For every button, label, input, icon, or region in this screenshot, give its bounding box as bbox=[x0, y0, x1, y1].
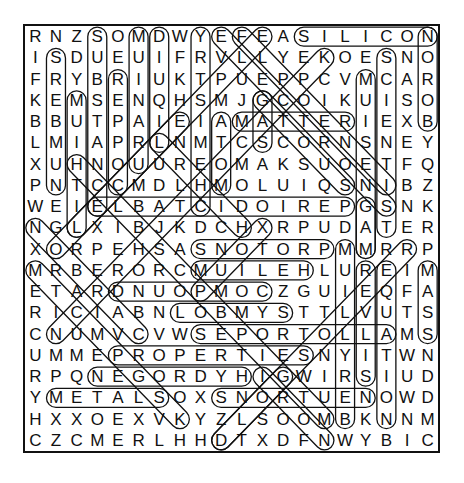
grid-cell[interactable]: E bbox=[108, 239, 129, 260]
grid-cell[interactable]: O bbox=[273, 239, 294, 260]
grid-cell[interactable]: I bbox=[25, 47, 46, 68]
grid-cell[interactable]: P bbox=[46, 366, 67, 387]
grid-cell[interactable]: R bbox=[170, 154, 191, 175]
grid-cell[interactable]: H bbox=[190, 430, 211, 451]
grid-cell[interactable]: C bbox=[170, 260, 191, 281]
grid-cell[interactable]: I bbox=[46, 302, 67, 323]
grid-cell[interactable]: P bbox=[293, 69, 314, 90]
grid-cell[interactable]: O bbox=[273, 409, 294, 430]
grid-cell[interactable]: I bbox=[397, 430, 418, 451]
grid-cell[interactable]: N bbox=[87, 154, 108, 175]
grid-cell[interactable]: E bbox=[87, 345, 108, 366]
grid-cell[interactable]: E bbox=[190, 345, 211, 366]
grid-cell[interactable]: G bbox=[273, 366, 294, 387]
grid-cell[interactable]: X bbox=[252, 430, 273, 451]
grid-cell[interactable]: R bbox=[355, 260, 376, 281]
grid-cell[interactable]: E bbox=[46, 196, 67, 217]
grid-cell[interactable]: V bbox=[335, 69, 356, 90]
grid-cell[interactable]: X bbox=[25, 154, 46, 175]
grid-cell[interactable]: D bbox=[417, 387, 438, 408]
grid-cell[interactable]: T bbox=[293, 387, 314, 408]
grid-cell[interactable]: V bbox=[355, 302, 376, 323]
grid-cell[interactable]: A bbox=[252, 154, 273, 175]
grid-cell[interactable]: I bbox=[149, 111, 170, 132]
grid-cell[interactable]: W bbox=[25, 196, 46, 217]
grid-cell[interactable]: I bbox=[149, 47, 170, 68]
grid-cell[interactable]: R bbox=[293, 196, 314, 217]
grid-cell[interactable]: V bbox=[211, 47, 232, 68]
grid-cell[interactable]: A bbox=[108, 302, 129, 323]
grid-cell[interactable]: W bbox=[293, 366, 314, 387]
grid-cell[interactable]: S bbox=[273, 302, 294, 323]
grid-cell[interactable]: M bbox=[231, 302, 252, 323]
grid-cell[interactable]: Y bbox=[252, 302, 273, 323]
grid-cell[interactable]: N bbox=[417, 345, 438, 366]
grid-cell[interactable]: X bbox=[190, 387, 211, 408]
grid-cell[interactable]: N bbox=[87, 366, 108, 387]
grid-cell[interactable]: N bbox=[376, 132, 397, 153]
grid-cell[interactable]: N bbox=[314, 430, 335, 451]
grid-cell[interactable]: B bbox=[397, 175, 418, 196]
grid-cell[interactable]: C bbox=[66, 302, 87, 323]
grid-cell[interactable]: S bbox=[335, 175, 356, 196]
grid-cell[interactable]: I bbox=[376, 366, 397, 387]
grid-cell[interactable]: L bbox=[252, 260, 273, 281]
grid-cell[interactable]: W bbox=[170, 324, 191, 345]
grid-cell[interactable]: G bbox=[293, 281, 314, 302]
grid-cell[interactable]: D bbox=[66, 47, 87, 68]
grid-cell[interactable]: C bbox=[108, 175, 129, 196]
grid-cell[interactable]: U bbox=[376, 302, 397, 323]
grid-cell[interactable]: H bbox=[170, 430, 191, 451]
grid-cell[interactable]: A bbox=[397, 69, 418, 90]
grid-cell[interactable]: D bbox=[149, 175, 170, 196]
grid-cell[interactable]: T bbox=[376, 154, 397, 175]
grid-cell[interactable]: P bbox=[87, 239, 108, 260]
grid-cell[interactable]: L bbox=[128, 387, 149, 408]
grid-cell[interactable]: E bbox=[108, 366, 129, 387]
grid-cell[interactable]: T bbox=[273, 111, 294, 132]
grid-cell[interactable]: T bbox=[314, 302, 335, 323]
grid-cell[interactable]: I bbox=[355, 111, 376, 132]
grid-cell[interactable]: Y bbox=[335, 345, 356, 366]
grid-cell[interactable]: Z bbox=[66, 26, 87, 47]
grid-cell[interactable]: N bbox=[231, 387, 252, 408]
grid-cell[interactable]: C bbox=[273, 132, 294, 153]
grid-cell[interactable]: O bbox=[314, 324, 335, 345]
grid-cell[interactable]: X bbox=[46, 409, 67, 430]
grid-cell[interactable]: K bbox=[273, 154, 294, 175]
grid-cell[interactable]: A bbox=[376, 324, 397, 345]
grid-cell[interactable]: I bbox=[314, 26, 335, 47]
grid-cell[interactable]: R bbox=[273, 387, 294, 408]
grid-cell[interactable]: P bbox=[417, 239, 438, 260]
grid-cell[interactable]: Y bbox=[190, 409, 211, 430]
grid-cell[interactable]: U bbox=[66, 111, 87, 132]
grid-cell[interactable]: L bbox=[108, 196, 129, 217]
grid-cell[interactable]: O bbox=[231, 239, 252, 260]
grid-cell[interactable]: A bbox=[170, 239, 191, 260]
grid-cell[interactable]: N bbox=[397, 196, 418, 217]
grid-cell[interactable]: I bbox=[314, 90, 335, 111]
grid-cell[interactable]: V bbox=[108, 324, 129, 345]
grid-cell[interactable]: M bbox=[128, 175, 149, 196]
grid-cell[interactable]: M bbox=[87, 324, 108, 345]
grid-cell[interactable]: I bbox=[252, 345, 273, 366]
grid-cell[interactable]: M bbox=[46, 387, 67, 408]
grid-cell[interactable]: I bbox=[314, 366, 335, 387]
grid-cell[interactable]: S bbox=[417, 302, 438, 323]
grid-cell[interactable]: R bbox=[314, 132, 335, 153]
grid-cell[interactable]: E bbox=[273, 345, 294, 366]
grid-cell[interactable]: E bbox=[314, 111, 335, 132]
grid-cell[interactable]: R bbox=[335, 366, 356, 387]
grid-cell[interactable]: C bbox=[87, 175, 108, 196]
grid-cell[interactable]: I bbox=[190, 111, 211, 132]
grid-cell[interactable]: S bbox=[397, 90, 418, 111]
grid-cell[interactable]: H bbox=[128, 239, 149, 260]
grid-cell[interactable]: K bbox=[335, 90, 356, 111]
grid-cell[interactable]: D bbox=[273, 430, 294, 451]
grid-cell[interactable]: I bbox=[397, 260, 418, 281]
grid-cell[interactable]: N bbox=[397, 47, 418, 68]
grid-cell[interactable]: R bbox=[211, 345, 232, 366]
grid-cell[interactable]: A bbox=[149, 196, 170, 217]
grid-cell[interactable]: H bbox=[293, 260, 314, 281]
grid-cell[interactable]: Z bbox=[417, 175, 438, 196]
